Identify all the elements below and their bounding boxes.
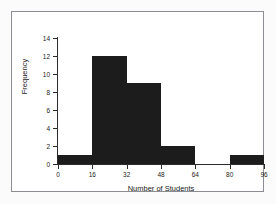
y-axis-title: Frequency — [20, 42, 29, 112]
x-tick-mark — [230, 165, 231, 169]
y-tick-label: 14 — [12, 35, 50, 42]
x-tick-label: 0 — [43, 171, 73, 179]
y-tick-label: 6 — [12, 107, 50, 114]
histogram-bar — [58, 155, 92, 164]
y-tick-label: 2 — [12, 143, 50, 150]
y-tick-label: 0 — [12, 161, 50, 168]
x-tick-label: 96 — [249, 171, 276, 179]
x-tick-mark — [264, 165, 265, 169]
histogram-bar — [92, 56, 126, 164]
x-tick-mark — [127, 165, 128, 169]
x-tick-label: 32 — [112, 171, 142, 179]
x-tick-label: 80 — [215, 171, 245, 179]
x-tick-mark — [161, 165, 162, 169]
x-tick-label: 16 — [77, 171, 107, 179]
histogram-bar — [230, 155, 264, 164]
x-axis-title: Number of Students — [58, 184, 264, 193]
x-tick-mark — [58, 165, 59, 169]
x-tick-label: 48 — [146, 171, 176, 179]
figure-frame: 02468101214 0163248648096 Number of Stud… — [11, 11, 264, 192]
histogram-bar — [161, 146, 195, 164]
y-tick-label: 12 — [12, 53, 50, 60]
y-tick-label: 10 — [12, 71, 50, 78]
plot-area — [58, 38, 264, 164]
x-tick-mark — [195, 165, 196, 169]
x-tick-label: 64 — [180, 171, 210, 179]
y-tick-label: 8 — [12, 89, 50, 96]
figure-canvas: 02468101214 0163248648096 Number of Stud… — [0, 0, 276, 204]
histogram-bar — [127, 83, 161, 164]
y-tick-label: 4 — [12, 125, 50, 132]
x-tick-mark — [92, 165, 93, 169]
